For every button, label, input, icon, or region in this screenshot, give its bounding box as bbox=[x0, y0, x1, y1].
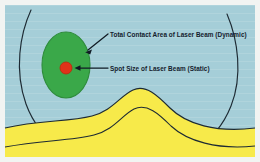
laser-spot-dot bbox=[60, 62, 72, 74]
diagram-canvas bbox=[0, 0, 260, 162]
laser-beam-diagram: Total Contact Area of Laser Beam (Dynami… bbox=[0, 0, 260, 162]
annotation-label-dynamic: Total Contact Area of Laser Beam (Dynami… bbox=[110, 32, 247, 38]
annotation-label-static: Spot Size of Laser Beam (Static) bbox=[110, 66, 210, 72]
